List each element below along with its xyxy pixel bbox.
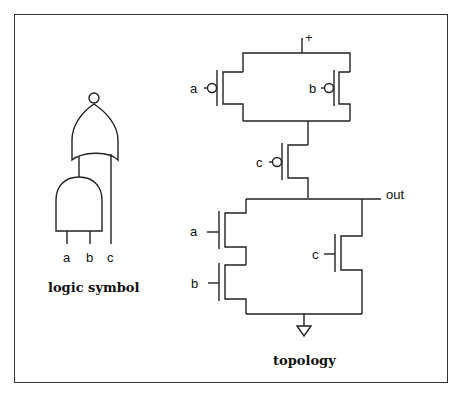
pmos-b-gate-label: b — [309, 81, 316, 96]
pmos-a-bubble — [208, 84, 217, 93]
pmos-c-bubble — [273, 158, 282, 167]
pmos-c-gate-label: c — [256, 155, 263, 170]
input-c-label: c — [107, 250, 114, 265]
pmos-c: c — [256, 143, 308, 198]
nmos-c-gate-label: c — [312, 247, 319, 262]
pmos-b: b — [309, 70, 350, 121]
nmos-b: b — [191, 263, 246, 314]
supply-label: + — [305, 30, 313, 45]
nmos-a: a — [190, 199, 246, 265]
nor-gate-body — [72, 104, 118, 160]
topology: + a b c — [190, 30, 404, 368]
input-a-label: a — [63, 250, 71, 265]
pmos-b-bubble — [325, 84, 334, 93]
nmos-a-gate-label: a — [190, 224, 198, 239]
and-gate-body — [56, 177, 102, 231]
input-b-label: b — [86, 250, 93, 265]
topology-caption: topology — [273, 353, 336, 368]
logic-symbol: a b c logic symbol — [48, 93, 139, 295]
pullup-parallel-network — [243, 53, 350, 72]
pmos-a-gate-label: a — [190, 81, 198, 96]
pmos-a: a — [190, 70, 243, 121]
nor-output-bubble — [89, 93, 99, 103]
nmos-c: c — [312, 199, 362, 314]
output-label: out — [386, 187, 404, 202]
diagram-canvas: a b c logic symbol + a b — [0, 0, 462, 394]
ground-icon — [297, 326, 311, 336]
logic-symbol-caption: logic symbol — [48, 280, 139, 295]
nmos-b-gate-label: b — [191, 276, 198, 291]
